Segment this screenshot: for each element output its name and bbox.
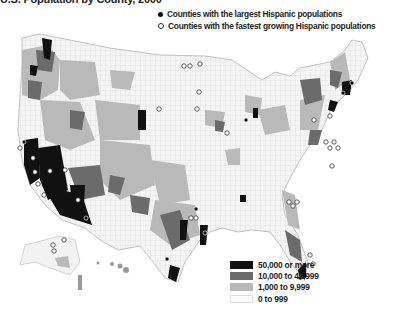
swatch-icon [230, 272, 253, 280]
legend-item: 0 to 999 [230, 293, 319, 304]
legend-item: 1,000 to 9,999 [230, 282, 319, 293]
hollow-circle-icon [158, 23, 164, 29]
swatch-icon [230, 295, 253, 303]
alaska-inset [20, 236, 80, 275]
legend-item: 10,000 to 49,999 [230, 270, 319, 281]
legend-label: 0 to 999 [258, 294, 288, 304]
legend-label: 50,000 or more [258, 260, 314, 270]
marker-legend-label: Counties with the largest Hispanic popul… [167, 9, 342, 19]
marker-legend: Counties with the largest Hispanic popul… [158, 8, 376, 32]
choropleth-legend: 50,000 or more 10,000 to 49,999 1,000 to… [230, 259, 319, 304]
marker-legend-largest: Counties with the largest Hispanic popul… [158, 8, 376, 20]
legend-item: 50,000 or more [230, 259, 319, 270]
swatch-icon [230, 261, 253, 269]
swatch-icon [230, 283, 253, 291]
legend-label: 1,000 to 9,999 [258, 282, 310, 292]
legend-label: 10,000 to 49,999 [258, 271, 319, 281]
marker-legend-label: Counties with the fastest growing Hispan… [168, 21, 376, 31]
us-county-map [0, 0, 398, 313]
hawaii-inset [97, 262, 130, 274]
filled-circle-icon [158, 12, 163, 17]
marker-legend-fastest: Counties with the fastest growing Hispan… [158, 20, 376, 32]
